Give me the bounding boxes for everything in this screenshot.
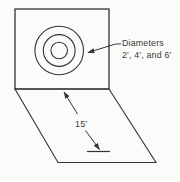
distance-label: 15′ <box>75 119 87 129</box>
target-circle-outer <box>35 26 84 75</box>
diameters-label-line1: Diameters <box>122 38 164 48</box>
diagram-svg: Diameters 2′, 4′, and 6′ 15′ <box>0 0 180 182</box>
distance-arrow-upper-icon <box>64 92 78 114</box>
wall-panel <box>15 9 109 89</box>
distance-arrow-lower-icon <box>86 131 100 150</box>
diameters-leader-arrow-icon <box>88 44 121 53</box>
target-circle-inner <box>51 42 68 59</box>
diameters-label-line2: 2′, 4′, and 6′ <box>122 50 171 60</box>
target-circle-middle <box>43 35 75 67</box>
figure-canvas: Diameters 2′, 4′, and 6′ 15′ <box>0 0 180 182</box>
